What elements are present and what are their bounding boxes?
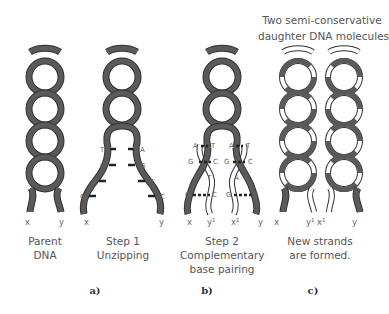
strand-label-x: x [84, 217, 89, 227]
caption-step2-line3: base pairing [180, 262, 264, 276]
caption-parent-line2: DNA [15, 248, 75, 262]
daughter-title-line1: Two semi-conservative [262, 13, 382, 27]
base-C: C [253, 191, 258, 199]
strand-label-y: y [159, 217, 164, 227]
strand-label-x1: x¹ [317, 217, 325, 227]
strand-label-x: x [25, 217, 30, 227]
base-T: T [149, 178, 155, 186]
base-T: T [99, 146, 105, 154]
base-G: G [224, 158, 229, 166]
daughter-molecule-2 [328, 48, 360, 212]
caption-daughters-line1: New strands [280, 234, 360, 248]
base-A: A [229, 142, 234, 150]
parent-dna-helix [29, 48, 61, 212]
base-C: C [212, 191, 217, 199]
daughter-title-line2: daughter DNA molecules [258, 29, 386, 43]
base-T: T [206, 174, 212, 182]
base-G: G [185, 191, 190, 199]
daughter-molecule-1 [282, 48, 314, 212]
strand-label-y: y [59, 217, 64, 227]
base-G: G [226, 191, 231, 199]
step1-unzipping-helix: T C A G A G T C [80, 48, 165, 214]
base-C: C [213, 158, 218, 166]
base-T: T [210, 142, 216, 150]
strand-label-y: y [352, 217, 357, 227]
strand-label-x: x [187, 217, 192, 227]
base-A: A [234, 174, 239, 182]
part-label-a: a) [88, 285, 102, 296]
base-A: A [193, 142, 198, 150]
strand-label-x1: x¹ [231, 217, 239, 227]
strand-label-y1: y¹ [306, 217, 314, 227]
base-C: C [160, 193, 165, 201]
base-T: T [245, 142, 251, 150]
caption-step2-line1: Step 2 [180, 234, 264, 248]
caption-step1-line1: Step 1 [92, 234, 154, 248]
base-A: A [140, 146, 145, 154]
base-C: C [100, 162, 105, 170]
part-label-b: b) [200, 285, 214, 296]
base-A: A [91, 178, 96, 186]
base-C: C [248, 158, 253, 166]
step2-pairing-helix: A T G C A T G C A T G C A T G C [185, 48, 258, 214]
strand-label-y1: y¹ [207, 217, 215, 227]
caption-step2-line2: Complementary [180, 248, 264, 262]
caption-daughters-line2: are formed. [280, 248, 360, 262]
caption-step1-line2: Unzipping [92, 248, 154, 262]
caption-parent-line1: Parent [15, 234, 75, 248]
base-G: G [140, 162, 145, 170]
part-label-c: c) [306, 285, 320, 296]
strand-label-x: x [274, 217, 279, 227]
base-G: G [188, 158, 193, 166]
strand-label-y: y [258, 217, 263, 227]
base-T: T [242, 174, 248, 182]
base-A: A [193, 174, 198, 182]
base-G: G [80, 193, 85, 201]
